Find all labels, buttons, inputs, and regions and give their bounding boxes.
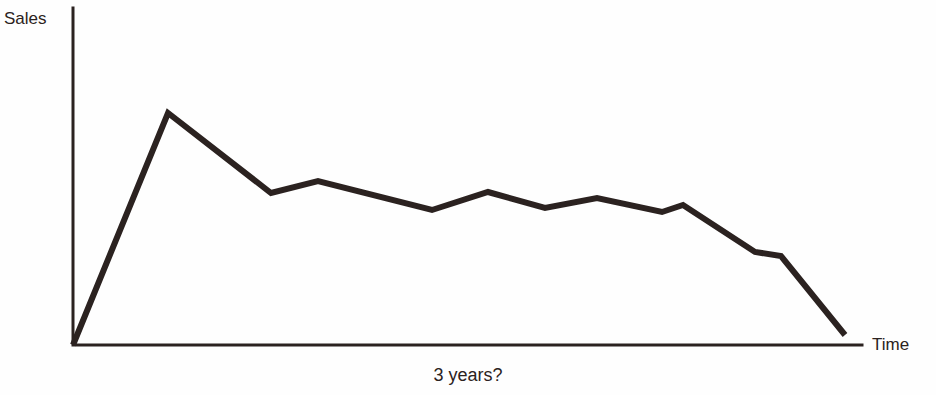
sales-over-time-chart: Sales Time 3 years? — [0, 0, 936, 395]
series-group — [73, 113, 845, 345]
chart-caption: 3 years? — [0, 366, 936, 384]
chart-plot-area — [0, 0, 936, 395]
chart-axes — [73, 8, 862, 345]
sales-line-series — [73, 113, 845, 345]
axes-group — [73, 8, 862, 345]
x-axis-label: Time — [872, 336, 909, 353]
y-axis-label: Sales — [4, 10, 47, 27]
